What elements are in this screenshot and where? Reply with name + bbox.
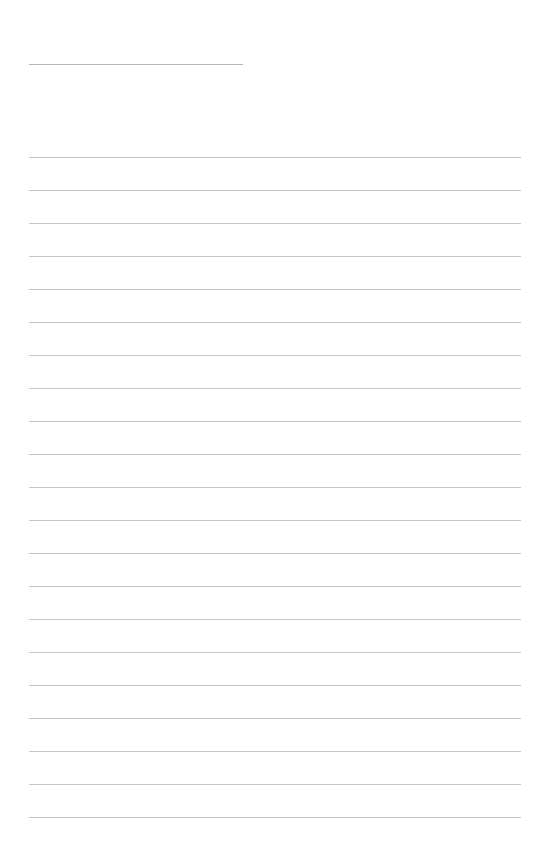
ruled-line[interactable] — [29, 421, 521, 422]
ruled-line[interactable] — [29, 256, 521, 257]
ruled-line[interactable] — [29, 586, 521, 587]
ruled-line[interactable] — [29, 454, 521, 455]
ruled-line[interactable] — [29, 322, 521, 323]
ruled-line[interactable] — [29, 223, 521, 224]
ruled-line[interactable] — [29, 751, 521, 752]
ruled-line[interactable] — [29, 157, 521, 158]
ruled-line[interactable] — [29, 520, 521, 521]
ruled-line[interactable] — [29, 817, 521, 818]
ruled-line[interactable] — [29, 784, 521, 785]
ruled-line[interactable] — [29, 388, 521, 389]
ruled-line[interactable] — [29, 190, 521, 191]
ruled-line[interactable] — [29, 487, 521, 488]
ruled-line[interactable] — [29, 619, 521, 620]
title-line[interactable] — [29, 64, 243, 65]
ruled-line[interactable] — [29, 652, 521, 653]
ruled-line[interactable] — [29, 289, 521, 290]
ruled-line[interactable] — [29, 718, 521, 719]
ruled-line[interactable] — [29, 355, 521, 356]
ruled-line[interactable] — [29, 553, 521, 554]
ruled-line[interactable] — [29, 685, 521, 686]
